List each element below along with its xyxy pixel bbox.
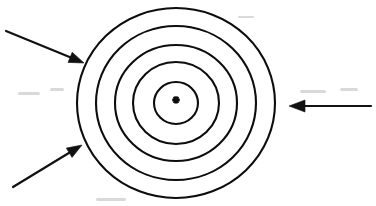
center-asterisk (172, 96, 180, 104)
scan-speck (238, 16, 254, 18)
scan-speck (18, 92, 40, 95)
center-asterisk-core (174, 98, 179, 103)
scan-speck (50, 88, 64, 91)
concentric-circles-diagram (0, 0, 376, 206)
scan-speck (300, 90, 326, 93)
scan-speck (96, 198, 126, 201)
scan-speck (340, 88, 358, 91)
canvas-background (0, 0, 376, 206)
figure-canvas (0, 0, 376, 206)
